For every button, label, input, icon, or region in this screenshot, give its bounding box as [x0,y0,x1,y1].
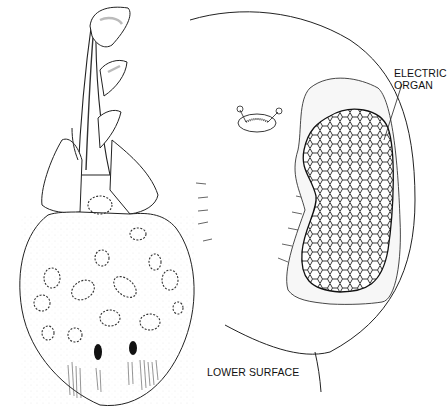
pelvic-fin-left [42,139,82,213]
electric-organ [302,109,394,292]
caudal-fin [90,7,130,47]
gill-slits [196,183,306,262]
lower-surface-label: LOWER SURFACE [207,366,299,378]
electric-organ-label-line1: ELECTRIC [394,67,447,79]
dorsal-fin-2 [100,60,127,96]
electric-organ-label-line2: ORGAN [394,79,433,91]
dorsal-fin-1 [98,110,121,148]
mouth [237,106,282,132]
ray-lower-surface-view [190,12,415,392]
spiracle-right [129,341,137,355]
ray-dorsal-view [20,7,195,405]
pelvic-fin-right [110,140,158,214]
spiracle-left [94,344,102,360]
